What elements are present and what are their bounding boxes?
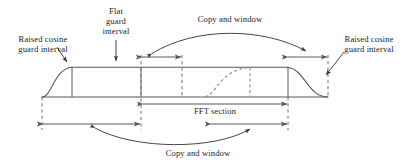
solid-guide-lines	[72, 68, 288, 97]
label-raised-cosine-left: Raised cosine guard interval	[4, 34, 82, 54]
copied-raised-cosine-curve	[205, 68, 250, 97]
diagram-canvas	[0, 0, 411, 166]
dashed-guide-lines	[42, 55, 328, 130]
pulse-envelope	[42, 67, 328, 97]
label-raised-cosine-right: Raised cosine guard interval	[330, 34, 408, 54]
label-copy-and-window-top: Copy and window	[166, 14, 294, 24]
label-copy-and-window-bottom: Copy and window	[134, 148, 262, 158]
label-flat-guard-interval: Flat guard interval	[92, 6, 140, 37]
copy-window-top-arc	[152, 33, 306, 53]
label-fft-section: FFT section	[168, 106, 262, 116]
copy-window-bottom-arc	[95, 128, 250, 145]
ofdm-guard-interval-diagram: Raised cosine guard interval Flat guard …	[0, 0, 411, 166]
